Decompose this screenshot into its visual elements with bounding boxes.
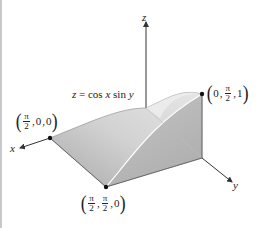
dot-pi2-pi2-0	[104, 185, 108, 189]
point-label-0-pi2-1: ( 0, π2 ,1 )	[206, 82, 250, 104]
x-axis	[20, 138, 50, 148]
z-axis-label: z	[142, 12, 146, 23]
x-axis-label: x	[10, 143, 15, 154]
y-axis-label: y	[233, 180, 238, 191]
equation-label: z = cos x sin y	[72, 89, 134, 100]
dot-0-pi2-1	[200, 92, 204, 96]
y-axis	[202, 158, 232, 182]
point-label-pi2-0-0: ( π2 ,0,0 )	[15, 110, 59, 132]
dot-pi2-0-0	[48, 136, 52, 140]
point-label-pi2-pi2-0: ( π2 , π2 ,0 )	[80, 192, 127, 214]
